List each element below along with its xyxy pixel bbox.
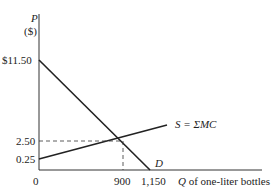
x-tick-1150: 1,150 [141, 175, 166, 187]
y-tick-11.50: $11.50 [2, 54, 32, 66]
y-tick-2.50: 2.50 [16, 135, 35, 147]
x-tick-0: 0 [33, 175, 39, 187]
supply-curve [39, 125, 167, 159]
y-axis-unit: ($) [24, 25, 37, 37]
demand-curve [39, 60, 150, 170]
x-axis-text: of one-liter bottles [189, 175, 270, 187]
supply-label: S = ΣMC [175, 118, 216, 130]
y-axis-label: P [31, 12, 38, 24]
y-tick-0.25: 0.25 [16, 153, 35, 165]
x-axis-var: Q [178, 175, 186, 187]
x-tick-900: 900 [114, 175, 131, 187]
x-axis-label: Q of one-liter bottles [178, 175, 270, 187]
chart-canvas [0, 0, 274, 191]
demand-label: D [155, 157, 163, 169]
